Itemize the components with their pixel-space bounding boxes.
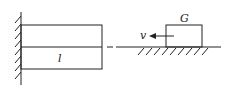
fixed-wall <box>15 12 21 85</box>
mechanics-diagram: l G v <box>0 0 229 89</box>
velocity-label: v <box>140 29 147 42</box>
ground <box>116 47 221 55</box>
block-weight-label: G <box>180 12 189 25</box>
velocity-arrow-icon <box>149 33 174 39</box>
beam-length-label: l <box>58 52 62 65</box>
